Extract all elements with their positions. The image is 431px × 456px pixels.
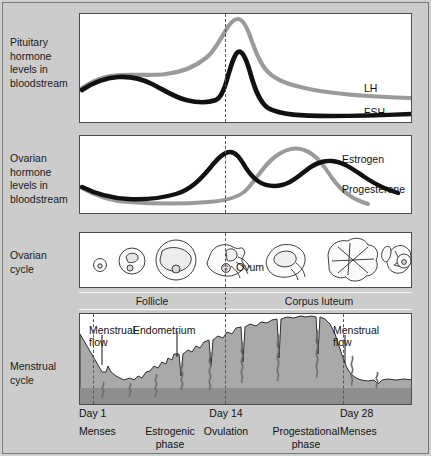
row-label-pituitary: Pituitary hormone levels in bloodstream — [10, 36, 76, 90]
axis-menses-left: Menses — [79, 425, 131, 438]
annotation-endometrium: Endometrium — [133, 324, 195, 336]
fsh-curve — [82, 52, 411, 116]
row-label-ovarian-cycle: Ovarian cycle — [10, 249, 76, 276]
ovulation-line-band — [225, 292, 226, 310]
corpus-luteum-stage-6 — [328, 238, 378, 281]
band-label-follicle: Follicle — [79, 295, 225, 307]
corpus-luteum-stage-5 — [266, 244, 305, 280]
annotation-menstrual-flow-left: Menstrual flow — [89, 324, 135, 348]
ovarian-hormone-chart — [80, 136, 412, 214]
panel-ovarian-hormones — [79, 135, 412, 214]
axis-ovulation: Ovulation — [196, 425, 256, 438]
panel-ovarian-cycle — [79, 232, 412, 288]
row-label-ovarian-hormone: Ovarian hormone levels in bloodstream — [10, 152, 76, 206]
annotation-menstrual-flow-right: Menstrual flow — [333, 324, 379, 348]
ovulation-line-panel-3 — [225, 233, 226, 287]
legend-estrogen-label: Estrogen — [342, 153, 384, 165]
row-label-menstrual-cycle: Menstrual cycle — [10, 360, 76, 387]
corpus-albicans — [382, 246, 391, 261]
ovulation-line-panel-4 — [225, 314, 226, 404]
pituitary-hormone-chart — [80, 14, 412, 123]
band-label-corpus-luteum: Corpus luteum — [226, 295, 412, 307]
follicle-stage-2 — [119, 248, 145, 274]
ovulation-line-panel-2 — [225, 136, 226, 213]
day-28-marker — [343, 314, 344, 404]
axis-progestational-phase: Progestational phase — [261, 425, 351, 451]
new-primordial-follicle — [397, 254, 411, 268]
panel-pituitary-hormones — [79, 13, 412, 123]
ovum-icon — [220, 262, 232, 274]
legend-lh-label: LH — [364, 82, 377, 94]
band-divider-bottom — [79, 309, 412, 310]
day-1-marker — [93, 314, 94, 404]
menstrual-cycle-figure: Pituitary hormone levels in bloodstream … — [0, 0, 431, 456]
legend-fsh-label: FSH — [364, 106, 385, 118]
axis-day-1: Day 1 — [79, 407, 127, 420]
ovulation-line-panel-1 — [225, 14, 226, 122]
axis-menses-right: Menses — [340, 425, 392, 438]
legend-progesterone-label: Progesterone — [342, 183, 405, 195]
follicle-stage-3 — [156, 240, 196, 280]
ovarian-cycle-pictogram-tail — [380, 240, 414, 282]
band-divider-top — [79, 292, 412, 293]
ovum-label: Ovum — [236, 261, 264, 273]
axis-day-28: Day 28 — [340, 407, 390, 420]
follicle-stage-1 — [94, 259, 107, 272]
axis-day-14: Day 14 — [196, 407, 256, 420]
